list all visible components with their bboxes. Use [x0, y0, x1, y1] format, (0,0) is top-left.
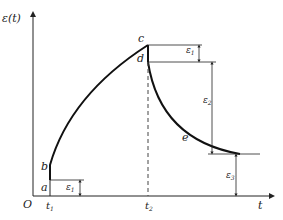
- loading-curve: [50, 45, 148, 180]
- point-d-label: d: [137, 52, 144, 65]
- e3-label: ε3: [226, 170, 235, 181]
- point-b-label: b: [41, 160, 48, 173]
- point-c-label: c: [138, 32, 144, 45]
- x-axis-label: t: [258, 199, 263, 212]
- origin-label: O: [23, 198, 32, 211]
- t2-label: t2: [145, 200, 153, 212]
- e2-label: ε2: [203, 95, 212, 106]
- e1-low-label: ε1: [66, 182, 75, 193]
- t1-label: t1: [46, 200, 54, 212]
- y-axis-label: ε(t): [2, 12, 21, 25]
- recovery-curve: [148, 62, 240, 154]
- point-e-label: e: [182, 131, 189, 144]
- e1-high-label: ε1: [186, 45, 195, 56]
- creep-strain-diagram: ε(t) O t t1 t2 a b c d e ε1 ε1 ε2 ε3: [0, 0, 283, 220]
- point-a-label: a: [41, 181, 48, 194]
